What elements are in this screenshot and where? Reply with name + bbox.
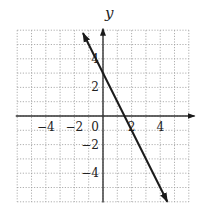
- x-tick-label: −2: [66, 120, 84, 134]
- y-tick-label: 2: [91, 80, 99, 94]
- axes: [16, 29, 195, 203]
- y-tick-label: −2: [81, 138, 99, 152]
- y-tick-label: −4: [81, 166, 99, 180]
- coordinate-plane: −4−202442−2−4 y: [0, 0, 197, 211]
- x-tick-label: 0: [91, 120, 99, 134]
- x-tick-label: −4: [37, 120, 55, 134]
- y-axis-label: y: [104, 4, 114, 22]
- x-tick-label: 4: [156, 120, 164, 134]
